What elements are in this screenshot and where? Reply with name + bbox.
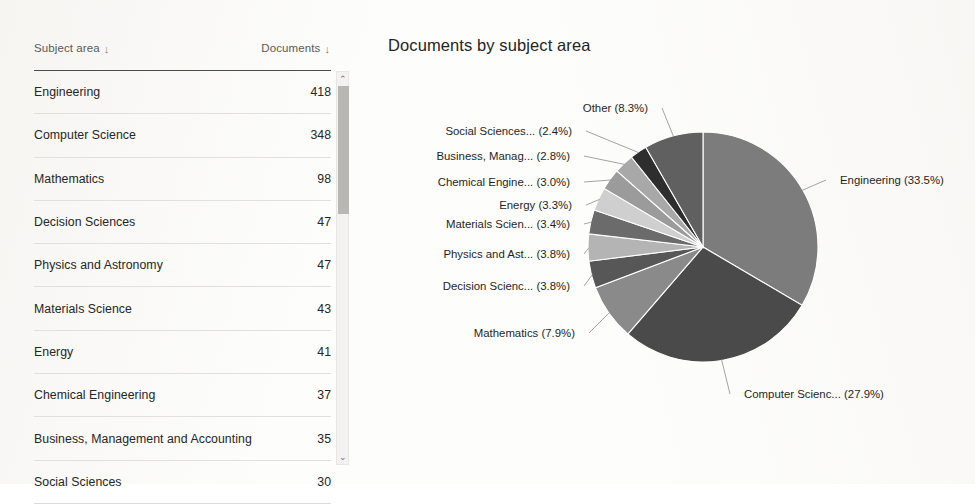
- column-header-documents-label: Documents: [261, 42, 320, 54]
- row-documents-value: 35: [317, 432, 331, 446]
- sort-descending-icon[interactable]: ↓: [104, 43, 110, 55]
- pie-chart-svg: Engineering (33.5%)Computer Scienc... (2…: [388, 36, 968, 466]
- row-subject-label: Business, Management and Accounting: [34, 432, 252, 446]
- pie-leader-line: [802, 180, 826, 191]
- pie-slice-label: Business, Manag... (2.8%): [436, 150, 570, 162]
- row-subject-label: Social Sciences: [34, 475, 122, 489]
- pie-slice-label: Energy (3.3%): [499, 199, 572, 211]
- pie-leader-line: [584, 180, 611, 182]
- table-row[interactable]: Energy 41: [34, 331, 331, 374]
- documents-by-subject-area-chart: Documents by subject area Engineering (3…: [388, 36, 968, 466]
- row-documents-value: 348: [310, 128, 331, 142]
- pie-slice-label: Other (8.3%): [583, 102, 648, 114]
- row-documents-value: 98: [317, 172, 331, 186]
- row-subject-label: Engineering: [34, 85, 100, 99]
- pie-leader-line: [722, 359, 731, 394]
- table-row[interactable]: Physics and Astronomy 47: [34, 244, 331, 287]
- pie-leader-line: [662, 108, 674, 137]
- column-header-subject-area-label: Subject area: [34, 42, 100, 54]
- scrollbar-thumb[interactable]: [338, 86, 349, 214]
- pie-slice-label: Physics and Ast... (3.8%): [443, 248, 570, 260]
- table-scrollbar[interactable]: ⌃ ⌄: [336, 71, 349, 465]
- row-documents-value: 43: [317, 302, 331, 316]
- row-documents-value: 47: [317, 258, 331, 272]
- column-header-documents[interactable]: Documents↓: [261, 42, 330, 54]
- row-documents-value: 30: [317, 475, 331, 489]
- table-row[interactable]: Materials Science 43: [34, 287, 331, 330]
- subject-area-table: Subject area↓ Documents↓ Engineering 418…: [34, 40, 364, 465]
- row-documents-value: 37: [317, 388, 331, 402]
- column-header-subject-area[interactable]: Subject area↓: [34, 42, 109, 54]
- row-subject-label: Energy: [34, 345, 73, 359]
- pie-leader-line: [586, 131, 639, 153]
- row-documents-value: 41: [317, 345, 331, 359]
- row-subject-label: Computer Science: [34, 128, 136, 142]
- pie-slice-label: Social Sciences... (2.4%): [445, 125, 572, 137]
- row-subject-label: Mathematics: [34, 172, 104, 186]
- table-row[interactable]: Mathematics 98: [34, 158, 331, 201]
- pie-slice-label: Chemical Engine... (3.0%): [438, 176, 571, 188]
- scroll-up-icon[interactable]: ⌃: [337, 73, 348, 85]
- table-row[interactable]: Decision Sciences 47: [34, 201, 331, 244]
- table-row[interactable]: Engineering 418: [34, 71, 331, 114]
- pie-leader-line: [589, 312, 610, 333]
- row-subject-label: Physics and Astronomy: [34, 258, 163, 272]
- row-subject-label: Decision Sciences: [34, 215, 135, 229]
- pie-slice-label: Decision Scienc... (3.8%): [443, 280, 570, 292]
- pie-leader-line: [584, 156, 625, 164]
- pie-slice-label: Engineering (33.5%): [840, 174, 944, 186]
- table-row[interactable]: Computer Science 348: [34, 114, 331, 157]
- row-subject-label: Chemical Engineering: [34, 388, 155, 402]
- table-row[interactable]: Business, Management and Accounting 35: [34, 417, 331, 460]
- table-header-row: Subject area↓ Documents↓: [34, 40, 364, 70]
- pie-leader-line: [584, 274, 593, 286]
- row-documents-value: 418: [310, 85, 331, 99]
- table-body: Engineering 418 Computer Science 348 Mat…: [34, 71, 331, 463]
- scroll-down-icon[interactable]: ⌄: [337, 451, 348, 463]
- pie-slices[interactable]: [588, 132, 818, 362]
- pie-slice-label: Computer Scienc... (27.9%): [744, 388, 884, 400]
- table-row[interactable]: Social Sciences 30: [34, 461, 331, 504]
- row-subject-label: Materials Science: [34, 302, 132, 316]
- row-documents-value: 47: [317, 215, 331, 229]
- sort-descending-icon[interactable]: ↓: [324, 43, 330, 55]
- table-row[interactable]: Chemical Engineering 37: [34, 374, 331, 417]
- pie-slice-label: Materials Scien... (3.4%): [446, 218, 570, 230]
- pie-slice-label: Mathematics (7.9%): [474, 327, 575, 339]
